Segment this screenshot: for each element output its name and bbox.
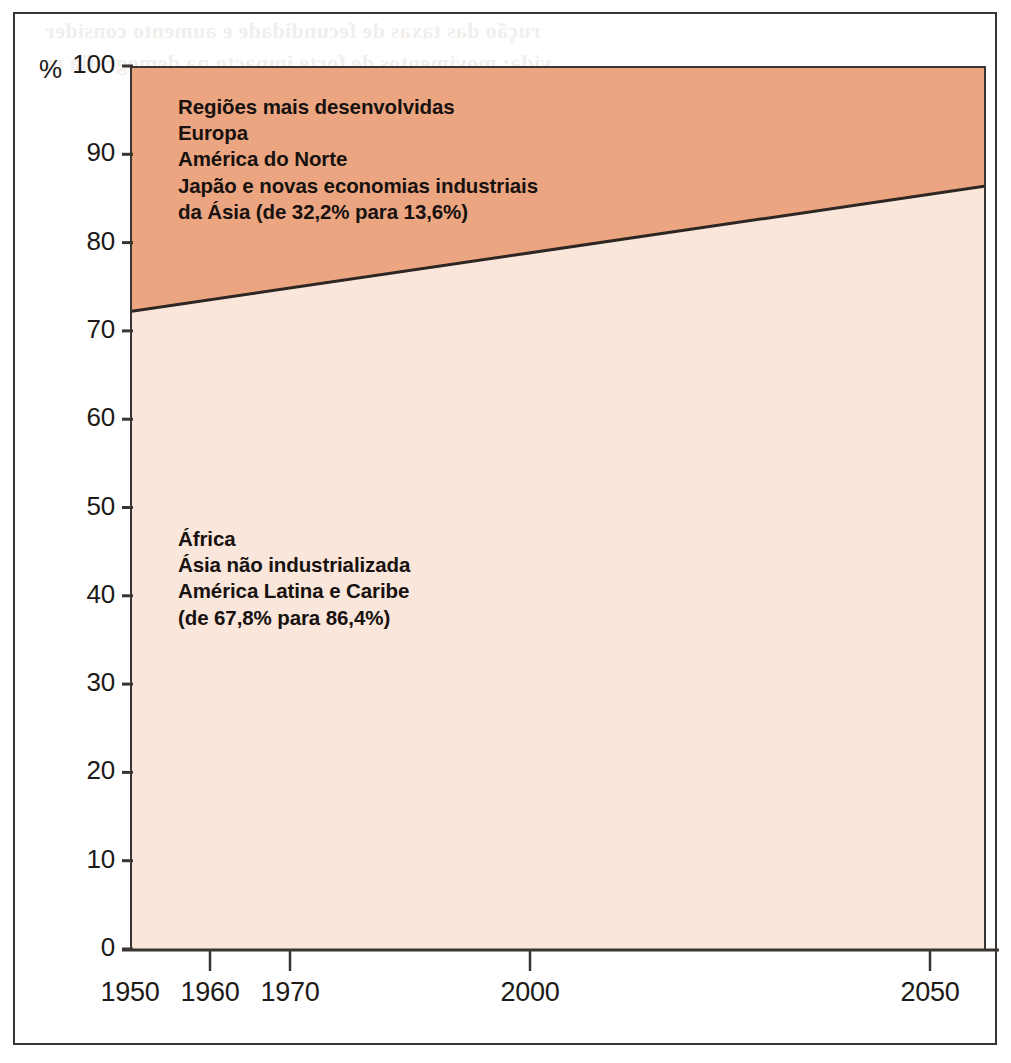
x-tick-label-1960: 1960: [181, 977, 240, 1008]
annotation-less-developed-regions: África Ásia não industrializada América …: [178, 526, 410, 631]
x-tick-label-2050: 2050: [901, 977, 960, 1008]
x-tick-label-1970: 1970: [261, 977, 320, 1008]
figure-frame: rução das taxas de fecundidade e aumento…: [13, 12, 997, 1045]
x-tick-label-1950: 1950: [101, 977, 160, 1008]
x-tick-label-2000: 2000: [501, 977, 560, 1008]
annotation-more-developed-regions: Regiões mais desenvolvidas Europa Améric…: [178, 94, 538, 225]
